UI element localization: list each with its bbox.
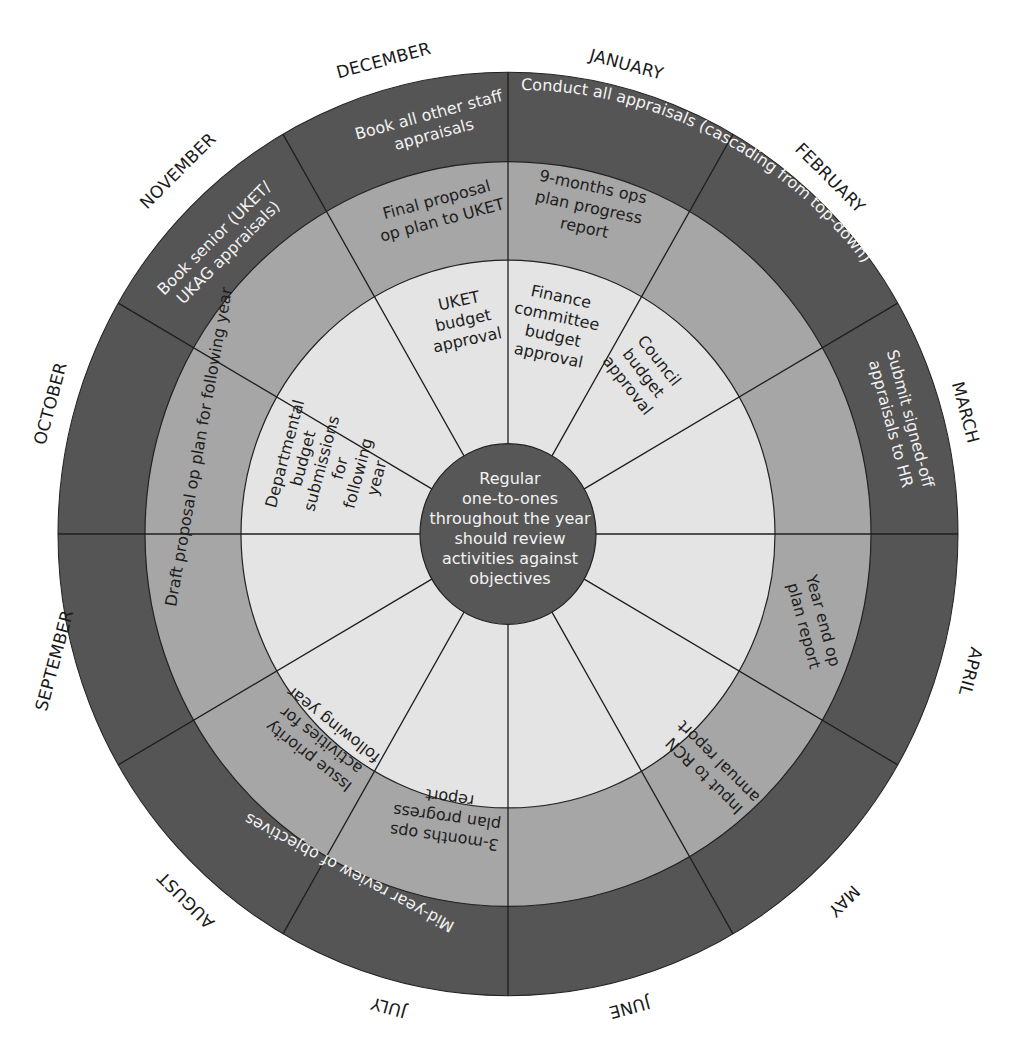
month-december: DECEMBER [334, 38, 433, 82]
center-line5: activities against [442, 549, 578, 568]
planning-cycle-wheel: JANUARY FEBRUARY MARCH APRIL MAY JUNE JU… [0, 0, 1011, 1047]
center-line2: one-to-ones [462, 489, 558, 508]
center-line3: throughout the year [429, 509, 591, 528]
center-line6: objectives [469, 569, 550, 588]
month-october: OCTOBER [30, 360, 71, 447]
month-march: MARCH [948, 379, 984, 445]
month-january: JANUARY [586, 44, 666, 83]
month-may: MAY [824, 881, 864, 921]
center-line4: should review [454, 529, 565, 548]
month-july: JULY [368, 993, 409, 1022]
month-september: SEPTEMBER [31, 608, 77, 713]
month-april: APRIL [955, 645, 987, 698]
month-june: JUNE [607, 992, 653, 1022]
center-line1: Regular [479, 469, 541, 488]
